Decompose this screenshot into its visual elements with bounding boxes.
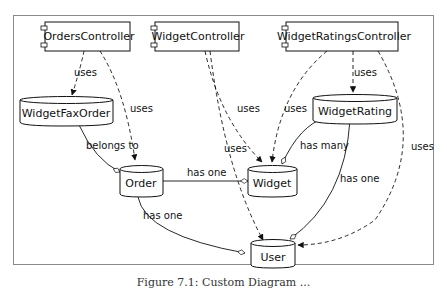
model-user: User (251, 240, 295, 269)
edge-order-user (138, 197, 245, 253)
component-label: WidgetController (152, 30, 245, 43)
label-belongs-to: belongs to (86, 140, 139, 151)
label-uses: uses (237, 103, 260, 114)
label-has-one: has one (187, 167, 226, 178)
label-has-one: has one (143, 210, 182, 221)
model-widgetfaxorder: WidgetFaxOrder (20, 97, 113, 127)
component-widgetratingscontroller: WidgetRatingsController (277, 22, 412, 51)
model-label: User (260, 251, 286, 264)
label-uses: uses (224, 143, 247, 154)
label-uses: uses (130, 103, 153, 114)
component-label: OrdersController (43, 30, 135, 43)
component-label: WidgetRatingsController (277, 30, 412, 43)
model-widgetrating: WidgetRating (313, 95, 397, 125)
architecture-diagram: uses uses uses uses uses uses uses belon… (0, 0, 447, 288)
component-widgetcontroller: WidgetController (151, 22, 245, 51)
label-has-one: has one (340, 173, 379, 184)
model-label: WidgetFaxOrder (22, 107, 111, 120)
label-has-many: has many (300, 140, 349, 151)
model-order: Order (120, 166, 163, 198)
label-uses: uses (411, 141, 434, 152)
model-widget: Widget (248, 166, 297, 198)
label-uses: uses (74, 67, 97, 78)
component-orderscontroller: OrdersController (41, 22, 135, 51)
model-label: Order (125, 177, 157, 190)
model-label: Widget (253, 177, 292, 190)
label-uses: uses (284, 103, 307, 114)
figure-caption: Figure 7.1: Custom Diagram ... (0, 276, 447, 288)
model-label: WidgetRating (318, 105, 392, 118)
label-uses: uses (354, 67, 377, 78)
